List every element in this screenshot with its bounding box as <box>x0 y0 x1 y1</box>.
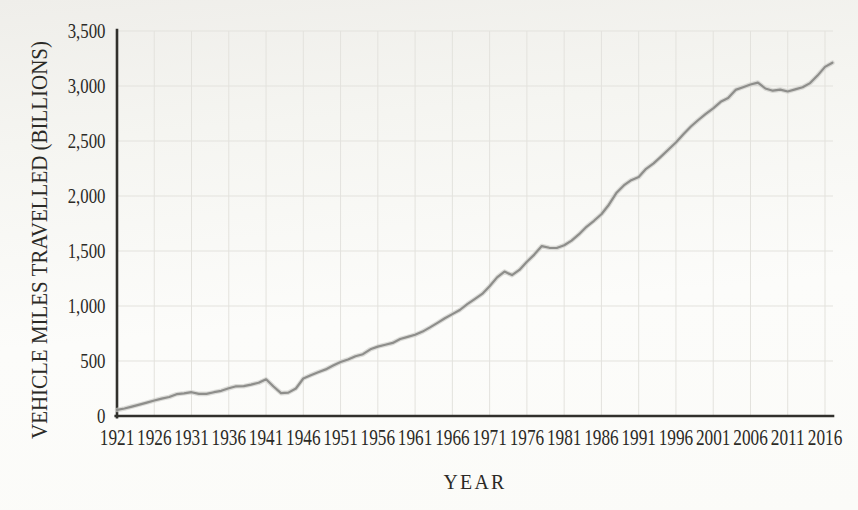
x-axis-title: YEAR <box>444 469 507 494</box>
vmt-line-chart: 05001,0001,5002,0002,5003,0003,500 19211… <box>0 0 858 510</box>
x-tick-label: 1966 <box>435 425 470 450</box>
vmt-series-halo <box>117 63 832 410</box>
vmt-series-line <box>117 63 832 410</box>
x-tick-label: 1996 <box>659 425 694 450</box>
y-tick-label: 1,000 <box>68 294 106 318</box>
data-line <box>117 63 832 410</box>
y-tick-label: 3,000 <box>68 74 106 98</box>
x-tick-labels: 1921192619311936194119461951195619611966… <box>100 425 843 450</box>
x-tick-label: 2011 <box>771 425 805 450</box>
chart-page: 05001,0001,5002,0002,5003,0003,500 19211… <box>0 0 858 510</box>
y-tick-labels: 05001,0001,5002,0002,5003,0003,500 <box>68 19 106 428</box>
x-tick-label: 2006 <box>733 425 768 450</box>
y-tick-label: 500 <box>80 349 105 373</box>
x-tick-label: 2001 <box>696 425 731 450</box>
x-tick-label: 1931 <box>174 425 209 450</box>
x-tick-label: 1986 <box>584 425 619 450</box>
x-tick-label: 1976 <box>510 425 545 450</box>
x-tick-label: 1981 <box>547 425 582 450</box>
x-tick-label: 1946 <box>286 425 321 450</box>
x-tick-label: 1941 <box>249 425 284 450</box>
x-tick-label: 1921 <box>100 425 135 450</box>
x-tick-label: 1951 <box>323 425 358 450</box>
y-axis-title: VEHICLE MILES TRAVELLED (BILLIONS) <box>27 41 52 439</box>
y-tick-label: 2,500 <box>68 129 106 153</box>
y-tick-label: 2,000 <box>68 184 106 208</box>
y-tick-label: 1,500 <box>68 239 106 263</box>
axes <box>116 30 833 417</box>
x-tick-label: 1961 <box>398 425 433 450</box>
y-tick-label: 3,500 <box>68 19 106 43</box>
x-tick-label: 2016 <box>808 425 843 450</box>
x-tick-label: 1971 <box>472 425 507 450</box>
x-tick-label: 1926 <box>137 425 172 450</box>
x-tick-label: 1936 <box>212 425 247 450</box>
x-tick-label: 1991 <box>621 425 656 450</box>
y-tick-label: 0 <box>97 404 105 428</box>
gridlines <box>117 31 833 416</box>
x-tick-label: 1956 <box>361 425 396 450</box>
